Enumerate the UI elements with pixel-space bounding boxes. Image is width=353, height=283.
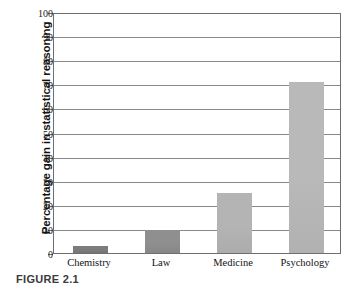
- y-tick-label: 30: [9, 176, 53, 187]
- category-label-law: Law: [125, 257, 197, 268]
- y-tick-label: 40: [9, 152, 53, 163]
- y-tick-label: 0: [9, 249, 53, 260]
- y-axis-ticks: 1009080706050403020100: [0, 0, 53, 283]
- bar-medicine: [217, 193, 252, 253]
- figure-container: Percentage gain in statistical reasoning…: [0, 0, 353, 283]
- y-tick-label: 70: [9, 80, 53, 91]
- bar-psychology: [289, 82, 324, 253]
- category-label-psychology: Psychology: [269, 257, 341, 268]
- category-label-chemistry: Chemistry: [53, 257, 125, 268]
- y-tick-label: 10: [9, 224, 53, 235]
- plot-area: [53, 13, 341, 254]
- y-tick-label: 100: [9, 8, 53, 19]
- y-tick-label: 90: [9, 32, 53, 43]
- y-tick-label: 20: [9, 200, 53, 211]
- bar-chemistry: [73, 246, 108, 253]
- gridline: [54, 13, 340, 14]
- gridline: [54, 37, 340, 38]
- y-tick-label: 60: [9, 104, 53, 115]
- figure-caption: FIGURE 2.1: [16, 273, 79, 283]
- y-tick-label: 80: [9, 56, 53, 67]
- gridline: [54, 61, 340, 62]
- bar-law: [145, 230, 180, 253]
- category-label-medicine: Medicine: [197, 257, 269, 268]
- y-tick-label: 50: [9, 128, 53, 139]
